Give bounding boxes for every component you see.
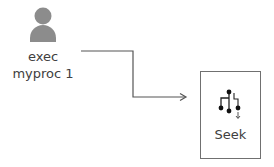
seek-node[interactable]: Seek bbox=[200, 71, 261, 159]
person-icon bbox=[28, 4, 58, 44]
actor-label-line1: exec bbox=[12, 48, 74, 65]
actor: exec myproc 1 bbox=[12, 4, 74, 82]
seek-tree-icon bbox=[217, 88, 245, 120]
seek-node-label: Seek bbox=[201, 127, 260, 142]
actor-label-line2: myproc 1 bbox=[12, 65, 74, 82]
